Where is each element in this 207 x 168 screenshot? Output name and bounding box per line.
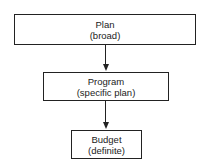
plan-subtitle: (broad) [90, 30, 121, 41]
program-subtitle: (specific plan) [77, 87, 136, 98]
arrowhead-plan-to-program [103, 64, 109, 71]
budget-title: Budget [91, 134, 121, 145]
budget-subtitle: (definite) [88, 145, 125, 156]
plan-title: Plan [95, 19, 114, 30]
plan-box: Plan (broad) [14, 14, 196, 45]
arrow-program-to-budget [105, 101, 106, 123]
arrow-plan-to-program [105, 45, 106, 65]
arrowhead-program-to-budget [103, 122, 109, 129]
program-title: Program [88, 76, 124, 87]
budget-box: Budget (definite) [71, 130, 142, 159]
program-box: Program (specific plan) [43, 72, 169, 101]
